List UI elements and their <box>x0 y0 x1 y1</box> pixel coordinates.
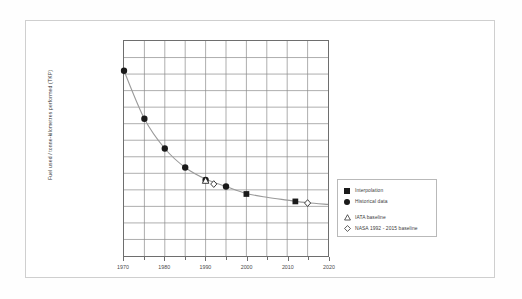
screenshot-page: Fuel used / tonne-kilometres performed (… <box>0 0 522 299</box>
chart-legend: Interpolation Historical data <box>337 179 437 237</box>
x-axis-tick-label: 2010 <box>282 264 294 270</box>
document-frame: Fuel used / tonne-kilometres performed (… <box>25 20 495 278</box>
data-point-filled-circle <box>141 116 147 122</box>
x-axis-minor-tick <box>144 257 145 260</box>
x-axis-tick-label: 2020 <box>323 264 335 270</box>
x-axis-tick-label: 1980 <box>158 264 170 270</box>
x-axis-tick-label: 2000 <box>241 264 253 270</box>
data-point-filled-circle <box>162 145 168 151</box>
filled-square-icon <box>344 188 355 194</box>
legend-label: Interpolation <box>355 188 383 193</box>
open-triangle-icon <box>344 214 355 221</box>
data-point-filled-circle <box>121 68 127 74</box>
x-axis-major-tick <box>329 257 330 261</box>
legend-group-baselines: IATA baseline NASA 1992 - 2015 baseline <box>344 213 431 234</box>
legend-label: NASA 1992 - 2015 baseline <box>355 226 418 231</box>
x-axis-major-tick <box>247 257 248 261</box>
open-diamond-icon <box>344 225 355 232</box>
plot-area <box>123 40 329 257</box>
y-axis-label: Fuel used / tonne-kilometres performed (… <box>43 50 57 200</box>
filled-circle-icon <box>344 199 355 205</box>
legend-item-iata-baseline: IATA baseline <box>344 213 431 223</box>
x-axis: 197019801990200020102020 <box>123 257 329 259</box>
x-axis-minor-tick <box>308 257 309 260</box>
x-axis-minor-tick <box>267 257 268 260</box>
x-axis-major-tick <box>288 257 289 261</box>
data-point-filled-square <box>244 191 250 197</box>
x-axis-tick-label: 1990 <box>199 264 211 270</box>
data-point-filled-square <box>292 199 298 205</box>
legend-group-data: Interpolation Historical data <box>344 186 431 207</box>
data-series-layer <box>124 41 328 256</box>
data-point-open-diamond <box>305 200 311 207</box>
legend-item-interpolation: Interpolation <box>344 186 431 196</box>
x-axis-minor-tick <box>185 257 186 260</box>
data-point-filled-circle <box>182 164 188 170</box>
chart-figure: Fuel used / tonne-kilometres performed (… <box>26 21 496 279</box>
x-axis-tick-label: 1970 <box>117 264 129 270</box>
legend-label: IATA baseline <box>355 215 386 220</box>
data-point-filled-circle <box>223 183 229 189</box>
legend-item-nasa-baseline: NASA 1992 - 2015 baseline <box>344 224 431 234</box>
x-axis-major-tick <box>205 257 206 261</box>
legend-label: Historical data <box>355 199 388 204</box>
x-axis-minor-tick <box>226 257 227 260</box>
legend-item-historical-data: Historical data <box>344 197 431 207</box>
x-axis-major-tick <box>164 257 165 261</box>
x-axis-major-tick <box>123 257 124 261</box>
